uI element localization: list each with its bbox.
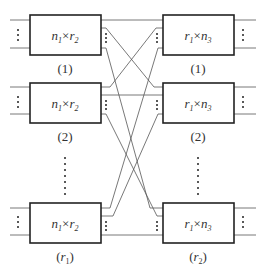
right-switch-r2-index: (r2)	[189, 249, 207, 266]
ellipsis-dots	[17, 29, 244, 231]
right-switch-1-index: (1)	[190, 61, 205, 76]
input-lines	[10, 20, 30, 235]
left-switch-r1-label: n1×r2	[52, 216, 79, 233]
right-switch-2-index: (2)	[190, 129, 205, 144]
right-switch-1-label: r1×n3	[185, 28, 212, 45]
left-switch-r1-index: (r1)	[56, 249, 74, 266]
right-switch-2-label: r1×n3	[185, 96, 212, 113]
output-lines	[234, 20, 256, 235]
left-switch-2-index: (2)	[57, 129, 72, 144]
left-switch-1-index: (1)	[57, 61, 72, 76]
left-switch-2-label: n1×r2	[52, 96, 79, 113]
switching-network-diagram: n1×r2 n1×r2 n1×r2 r1×n3 r1×n3 r1×n3 (1) …	[0, 0, 267, 271]
right-switch-r2-label: r1×n3	[185, 216, 212, 233]
left-switch-1-label: n1×r2	[52, 28, 79, 45]
interconnect-lines	[101, 20, 163, 235]
